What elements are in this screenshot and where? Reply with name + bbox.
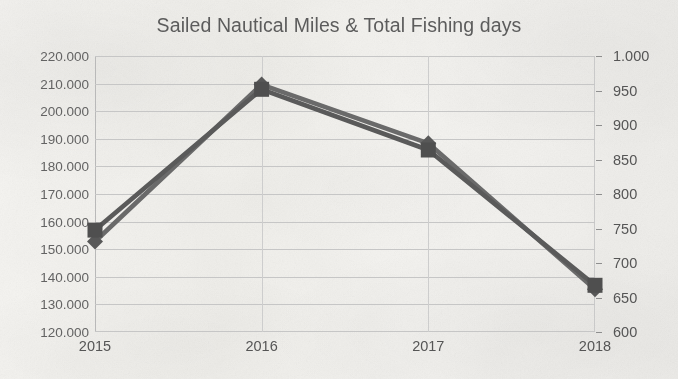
series-total-fishing-days [87,77,603,298]
series-marker-square [88,223,103,238]
series-marker-square [421,143,436,158]
series-marker-square [588,278,603,293]
series-line-sailed-nautical-miles [95,89,595,285]
line-chart: Sailed Nautical Miles & Total Fishing da… [0,0,678,379]
series-line-total-fishing-days [95,85,595,290]
series-overlay [0,0,678,379]
series-marker-square [254,82,269,97]
